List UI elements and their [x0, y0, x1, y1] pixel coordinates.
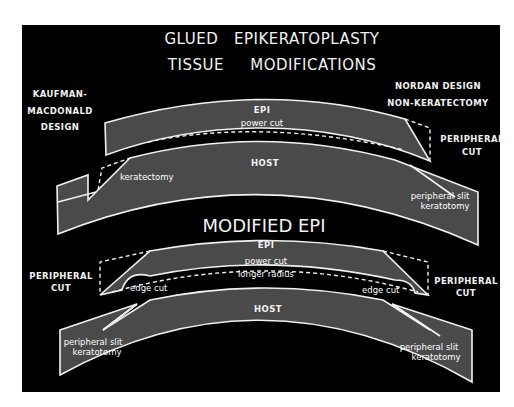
- host-label-bottom: HOST: [254, 304, 282, 314]
- slit-label-top-1: peripheral slit: [411, 191, 470, 201]
- keratectomy-label: keratectomy: [120, 172, 174, 182]
- title-line-1: GLUED EPIKERATOPLASTY: [164, 30, 379, 48]
- cut-label-top: CUT: [462, 147, 482, 157]
- edge-cut-label-right: edge cut: [362, 285, 400, 295]
- peripheral-cut-label-left-1: PERIPHERAL: [29, 271, 93, 281]
- slit-label-left-1: peripheral slit: [64, 337, 123, 347]
- host-label-top: HOST: [251, 158, 279, 168]
- slit-label-left-2: keratotomy: [73, 347, 122, 357]
- slit-label-right-1: peripheral slit: [400, 342, 459, 352]
- modified-epi-heading: MODIFIED EPI: [202, 215, 325, 236]
- power-cut-label-top: power cut: [241, 118, 284, 128]
- peripheral-cut-label-right-1: PERIPHERAL: [434, 276, 498, 286]
- nordan-design-label: NORDAN DESIGN: [395, 81, 481, 91]
- design-label: DESIGN: [41, 122, 80, 132]
- macdonald-label: MACDONALD: [27, 106, 92, 116]
- epi-label-top: EPI: [254, 105, 270, 115]
- peripheral-cut-label-top: PERIPHERAL: [440, 134, 504, 144]
- peripheral-cut-label-right-2: CUT: [456, 288, 476, 298]
- edge-cut-label-left: edge cut: [130, 283, 168, 293]
- longer-radius-label: longer radius: [238, 269, 295, 279]
- epi-label-bottom: EPI: [258, 240, 274, 250]
- title-line-2: TISSUE MODIFICATIONS: [167, 56, 376, 74]
- kaufman-label: KAUFMAN-: [33, 89, 88, 99]
- peripheral-cut-label-left-2: CUT: [51, 283, 71, 293]
- non-keratectomy-label: NON-KERATECTOMY: [387, 98, 489, 108]
- epikeratoplasty-diagram: GLUED EPIKERATOPLASTY TISSUE MODIFICATIO…: [0, 0, 514, 407]
- slit-label-top-2: keratotomy: [421, 201, 470, 211]
- slit-label-right-2: keratotomy: [412, 352, 461, 362]
- power-cut-label-bottom: power cut: [245, 256, 288, 266]
